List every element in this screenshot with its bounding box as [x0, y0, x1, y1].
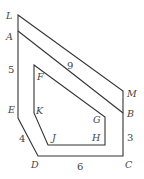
measure-ed: 4 — [19, 133, 25, 144]
vertex-label-e: E — [7, 104, 15, 115]
vertex-label-f: F — [36, 71, 44, 82]
vertex-label-l: L — [5, 10, 12, 21]
vertex-label-c: C — [125, 159, 133, 170]
measure-ae: 5 — [8, 64, 14, 75]
vertex-label-k: K — [35, 105, 44, 116]
measure-dc: 6 — [77, 161, 83, 172]
measure-lm: 9 — [67, 60, 73, 71]
vertex-label-b: B — [126, 108, 134, 119]
geometry-diagram: L A M B C D E F K J H G 5 4 6 3 9 — [0, 0, 144, 179]
vertex-label-j: J — [50, 132, 57, 143]
vertex-label-g: G — [93, 114, 101, 125]
vertex-label-h: H — [91, 132, 101, 143]
measure-cb: 3 — [127, 132, 133, 143]
vertex-label-m: M — [126, 88, 137, 99]
vertex-label-d: D — [30, 159, 39, 170]
vertex-label-a: A — [5, 31, 13, 42]
